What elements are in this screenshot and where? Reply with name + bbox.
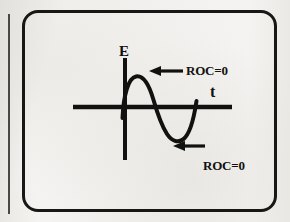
- diagram-drawing: [0, 0, 290, 222]
- horizontal-axis-label: t: [210, 84, 215, 100]
- roc-top-arrow: [149, 66, 183, 76]
- figure-stage: E t ROC=0 ROC=0: [0, 0, 290, 222]
- roc-label-bottom: ROC=0: [203, 159, 245, 172]
- roc-label-top: ROC=0: [186, 64, 228, 77]
- vertical-axis-label: E: [119, 44, 129, 59]
